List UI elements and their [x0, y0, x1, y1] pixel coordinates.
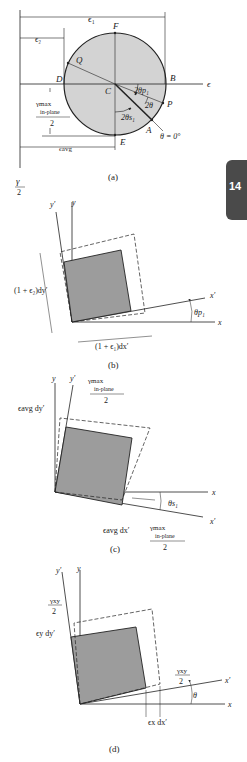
label-c-theta-s1: θs₁	[168, 499, 178, 508]
label-F: F	[112, 21, 119, 31]
label-epsilon-axis: ϵ	[207, 79, 211, 89]
label-c-in-plane2: in-plane	[155, 533, 175, 539]
label-c-gamma2-den: 2	[163, 543, 167, 552]
label-d-x: x	[227, 700, 232, 709]
general-strain-element: y′ y γxy 2 ϵy dy′ γxy 2 x′ θ x ϵx dx′ (d…	[36, 564, 232, 754]
label-d-gxy-num: γxy	[49, 597, 61, 605]
label-d-ey-dy: ϵy dy′	[36, 629, 55, 638]
label-E: E	[119, 137, 126, 147]
label-b-x-prime: x′	[209, 291, 216, 300]
label-C: C	[105, 86, 112, 96]
label-c-y-prime: y′	[69, 374, 76, 383]
caption-a: (a)	[108, 172, 118, 182]
label-c-y: y	[51, 374, 56, 383]
label-b-dy: (1 + ϵ₂)dy′	[14, 286, 48, 295]
strain-transformation-figure: ϵ₁ F ϵ₂ Q D C B ϵ 2θp₁ 2θ P 2θs₁ A θ = 0…	[0, 0, 247, 762]
label-b-dx: (1 + ϵ₁)dx′	[95, 342, 129, 351]
label-gamma-den: 2	[50, 119, 54, 128]
label-d-gxy2-den: 2	[179, 677, 183, 686]
label-gamma-axis-num: γ	[16, 176, 20, 186]
label-eps-avg: ϵavg	[59, 145, 72, 153]
theta-zero-line	[152, 120, 163, 131]
max-shear-strain-element: y y′ γmax in-plane 2 ϵavg dy′ x θs₁ x′ ϵ…	[18, 374, 216, 554]
label-b-y: y	[71, 198, 76, 207]
label-A: A	[145, 125, 152, 135]
label-b-x: x	[217, 318, 222, 327]
label-eps1: ϵ₁	[88, 14, 95, 24]
label-c-gamma: γmax	[87, 377, 104, 385]
caption-b: (b)	[108, 360, 119, 370]
label-2theta: 2θ	[145, 101, 153, 110]
label-theta-zero: θ = 0°	[160, 132, 181, 141]
label-c-gamma-den: 2	[104, 396, 108, 405]
label-c-gamma2: γmax	[149, 524, 166, 532]
label-Q: Q	[76, 55, 83, 65]
label-P: P	[166, 99, 173, 109]
label-B: B	[170, 73, 176, 83]
label-gamma-max: γmax	[35, 100, 52, 108]
label-c-eavg-dy: ϵavg dy′	[18, 404, 45, 413]
label-d-x-prime: x′	[224, 676, 231, 685]
principal-strain-element: y′ y (1 + ϵ₂)dy′ (1 + ϵ₁)dx′ x′ x θp₁ (b…	[14, 198, 222, 370]
label-d-y: y	[76, 564, 81, 573]
label-b-y-prime: y′	[49, 200, 56, 209]
label-in-plane: in-plane	[40, 109, 60, 115]
label-d-gxy2-num: γxy	[176, 667, 188, 675]
label-eps2: ϵ₂	[35, 35, 41, 44]
label-d-gxy-den: 2	[52, 607, 56, 616]
caption-c: (c)	[110, 544, 120, 554]
label-c-in-plane: in-plane	[94, 386, 114, 392]
label-d-ex-dx: ϵx dx′	[148, 718, 167, 727]
label-d-theta: θ	[193, 691, 197, 700]
label-c-eavg-dx: ϵavg dx′	[103, 526, 130, 535]
label-2theta-p1: 2θp₁	[134, 86, 149, 95]
label-b-theta-p1: θp₁	[194, 308, 205, 317]
label-gamma-axis-den: 2	[17, 188, 21, 197]
caption-d: (d)	[109, 744, 120, 754]
label-2theta-s1: 2θs₁	[121, 113, 135, 122]
label-c-x: x	[211, 488, 216, 497]
mohr-circle-diagram: ϵ₁ F ϵ₂ Q D C B ϵ 2θp₁ 2θ P 2θs₁ A θ = 0…	[15, 10, 211, 197]
label-d-y-prime: y′	[55, 566, 62, 575]
label-c-x-prime: x′	[209, 517, 216, 526]
label-D: D	[55, 74, 63, 84]
